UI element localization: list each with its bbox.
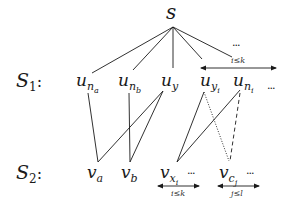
root-label: s xyxy=(166,0,176,24)
row-label-s2-sub: 2 xyxy=(29,172,37,186)
s2-dots-after-xi: ... xyxy=(187,165,195,176)
edge-s-u-yi xyxy=(173,27,202,59)
node-sub: b xyxy=(131,172,138,185)
node-base: u xyxy=(118,70,129,90)
edge-u-y-v-b xyxy=(130,91,163,162)
node-subsub: i xyxy=(217,86,220,95)
edge-u-y-v-a xyxy=(98,91,163,162)
node-subsub: b xyxy=(136,86,141,95)
node-sub-text: b xyxy=(131,172,138,185)
node-u-yi: uyi xyxy=(200,72,220,89)
row-label-s1-main: S xyxy=(16,69,29,91)
node-u-y: uy xyxy=(161,72,178,89)
edge-u-yi-v-xi xyxy=(177,92,204,162)
node-sub: cj xyxy=(229,172,238,185)
node-base: u xyxy=(76,70,87,90)
node-sub-text: y xyxy=(172,80,178,93)
row-label-s2-main: S xyxy=(16,161,29,183)
node-v-a: va xyxy=(87,164,103,181)
s1-above-dots: ... xyxy=(232,37,240,48)
node-u-ni: uni xyxy=(233,72,254,89)
node-base: v xyxy=(219,162,229,182)
node-v-xi: vxi xyxy=(160,164,178,181)
node-sub-text: n xyxy=(87,80,94,93)
s2-range-label-i: i≤k xyxy=(171,190,185,198)
row-label-s1-sub: 1 xyxy=(29,80,37,94)
node-v-cj: vcj xyxy=(219,164,237,181)
row-label-s2: S2: xyxy=(16,163,42,182)
node-u-nb: unb xyxy=(118,72,141,89)
node-base: v xyxy=(160,162,170,182)
node-sub-text: x xyxy=(170,172,176,185)
node-sub: a xyxy=(97,172,104,185)
node-subsub: i xyxy=(251,86,254,95)
node-sub-text: c xyxy=(229,172,235,185)
node-u-na: una xyxy=(76,72,99,89)
edge-s-u-na xyxy=(92,27,173,73)
root-node-s: s xyxy=(166,2,176,22)
edge-s-u-nb xyxy=(133,27,173,70)
diagram-edges xyxy=(0,0,290,210)
node-subsub: j xyxy=(235,178,237,187)
edge-u-na-v-a xyxy=(88,93,98,162)
row-label-s1: S1: xyxy=(16,71,42,90)
node-sub: y xyxy=(172,80,178,93)
node-sub-text: n xyxy=(129,80,136,93)
edge-u-ni-v-xi xyxy=(177,90,240,162)
node-sub: xi xyxy=(170,172,179,185)
node-sub: yi xyxy=(211,80,220,93)
s2-range-label-j: j≤l xyxy=(231,190,243,198)
node-subsub: a xyxy=(94,86,99,95)
edge-u-ni-v-cj-dashed xyxy=(230,93,240,161)
node-base: v xyxy=(121,162,131,182)
s1-trailing-dots: ... xyxy=(267,80,275,91)
node-base: u xyxy=(233,70,244,90)
node-sub: na xyxy=(87,80,99,93)
node-v-b: vb xyxy=(121,164,138,181)
s1-range-label: i≤k xyxy=(231,57,245,65)
node-base: u xyxy=(161,70,172,90)
s2-dots-after-cj: ... xyxy=(246,165,254,176)
node-sub-text: n xyxy=(244,80,251,93)
row-label-s2-colon: : xyxy=(37,164,42,183)
node-sub: nb xyxy=(129,80,141,93)
row-label-s1-colon: : xyxy=(37,72,42,91)
node-base: u xyxy=(200,70,211,90)
edge-s-u-ni xyxy=(173,27,232,57)
node-base: v xyxy=(87,162,97,182)
node-sub-text: a xyxy=(97,172,104,185)
node-sub: ni xyxy=(244,80,254,93)
